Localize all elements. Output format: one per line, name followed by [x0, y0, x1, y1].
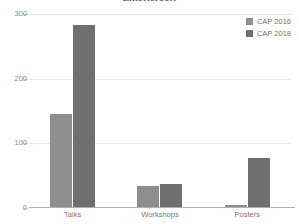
bar[interactable]: [160, 184, 182, 208]
bar[interactable]: [73, 25, 95, 208]
gridline-0: [29, 208, 291, 209]
x-tick-label-posters: Posters: [204, 211, 291, 219]
bar[interactable]: [50, 114, 72, 208]
bar-group: [29, 14, 116, 208]
legend-swatch-icon: [246, 30, 253, 37]
chart-title: Emerisrocri: [0, 0, 299, 3]
y-tick-mark: [24, 14, 28, 15]
y-tick-mark: [24, 143, 28, 144]
x-tick-label-workshops: Workshops: [116, 211, 203, 219]
x-tick-label-talks: Talks: [29, 211, 116, 219]
bar-group: [116, 14, 203, 208]
bar-group: [204, 14, 291, 208]
bar[interactable]: [137, 186, 159, 208]
legend-item[interactable]: CAP 2016: [246, 18, 291, 26]
y-tick-mark: [24, 208, 28, 209]
legend-label: CAP 2018: [257, 30, 291, 38]
plot-area: [29, 14, 291, 208]
legend-label: CAP 2016: [257, 18, 291, 26]
bar-chart: Emerisrocri 0100200300 CAP 2016CAP 2018 …: [0, 0, 299, 224]
y-tick-mark: [24, 79, 28, 80]
x-axis-line: [29, 207, 295, 208]
chart-legend: CAP 2016CAP 2018: [246, 18, 291, 37]
legend-item[interactable]: CAP 2018: [246, 30, 291, 38]
bar[interactable]: [248, 158, 270, 208]
legend-swatch-icon: [246, 18, 253, 25]
y-axis: 0100200300: [0, 0, 27, 224]
